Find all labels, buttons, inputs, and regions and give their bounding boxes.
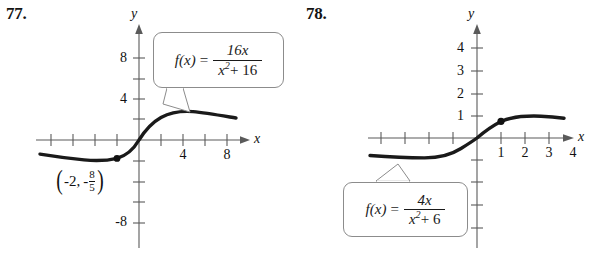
curve-78 bbox=[370, 116, 564, 158]
denominator-base-78: x bbox=[409, 211, 416, 227]
x-tick-label-2-78: 2 bbox=[517, 145, 533, 161]
worksheet-page: 77. bbox=[0, 0, 597, 254]
formula-callout-78: f(x) = 4x x2+ 6 bbox=[343, 182, 468, 237]
point-y-sign-77: - bbox=[83, 173, 88, 190]
y-axis-label-78: y bbox=[468, 6, 474, 22]
y-tick-label-8-77: 8 bbox=[111, 50, 127, 66]
problem-77: 77. bbox=[0, 0, 299, 254]
formula-denominator-78: x2+ 6 bbox=[404, 210, 445, 227]
point-y-fraction-77: 8 5 bbox=[89, 169, 95, 193]
point-marker-77 bbox=[114, 155, 121, 162]
denominator-rest-78: + 6 bbox=[421, 211, 441, 227]
x-axis-label-78: x bbox=[578, 129, 584, 145]
formula-denominator-77: x2+ 16 bbox=[213, 61, 262, 78]
callout-tail-78 bbox=[376, 164, 410, 181]
formula-equals-77: = bbox=[200, 52, 208, 69]
y-tick-label-2-78: 2 bbox=[448, 86, 464, 102]
formula-numerator-78: 4x bbox=[413, 192, 437, 209]
y-tick-label-neg8-77: -8 bbox=[103, 214, 127, 230]
formula-78: f(x) = 4x x2+ 6 bbox=[366, 192, 446, 227]
formula-equals-78: = bbox=[390, 201, 398, 218]
formula-function-name-77: f(x) bbox=[175, 52, 196, 69]
x-tick-label-4-78: 4 bbox=[565, 145, 581, 161]
formula-function-name-78: f(x) bbox=[366, 201, 387, 218]
point-y-numerator-77: 8 bbox=[89, 169, 95, 181]
denominator-rest-77: + 16 bbox=[230, 62, 257, 78]
point-y-denominator-77: 5 bbox=[89, 182, 95, 194]
denominator-base-77: x bbox=[218, 62, 225, 78]
point-close-paren-77: ) bbox=[97, 171, 103, 190]
y-tick-label-4-77: 4 bbox=[111, 91, 127, 107]
point-x-value-77: -2, bbox=[64, 173, 80, 190]
y-axis-label-77: y bbox=[131, 6, 137, 22]
formula-fraction-78: 4x x2+ 6 bbox=[404, 192, 445, 227]
formula-callout-77: f(x) = 16x x2+ 16 bbox=[153, 32, 284, 88]
point-label-77: ( -2, - 8 5 ) bbox=[55, 169, 105, 193]
callout-tail-77 bbox=[163, 88, 190, 112]
x-tick-label-4-77: 4 bbox=[175, 147, 191, 163]
point-open-paren-77: ( bbox=[56, 171, 62, 190]
formula-fraction-77: 16x x2+ 16 bbox=[213, 42, 262, 77]
x-axis-label-77: x bbox=[254, 131, 260, 147]
y-tick-label-3-78: 3 bbox=[448, 63, 464, 79]
problem-78: 78. bbox=[298, 0, 597, 254]
formula-numerator-77: 16x bbox=[222, 42, 254, 59]
x-tick-label-1-78: 1 bbox=[493, 145, 509, 161]
y-tick-label-4-78: 4 bbox=[448, 40, 464, 56]
point-marker-78 bbox=[497, 118, 504, 125]
formula-77: f(x) = 16x x2+ 16 bbox=[175, 42, 262, 77]
x-tick-label-3-78: 3 bbox=[541, 145, 557, 161]
y-tick-label-1-78: 1 bbox=[448, 108, 464, 124]
x-tick-label-8-77: 8 bbox=[219, 147, 235, 163]
